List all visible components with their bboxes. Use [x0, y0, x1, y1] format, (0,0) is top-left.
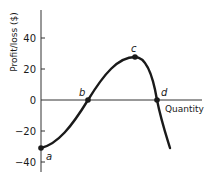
point-c-label: c	[131, 43, 137, 54]
point-a-marker	[38, 145, 44, 151]
point-c-marker	[132, 54, 138, 60]
x-axis-label: Quantity	[165, 104, 205, 114]
y-axis-label: Profit/loss ($)	[9, 12, 19, 72]
y-tick-label: 40	[23, 33, 36, 44]
point-b-label: b	[79, 87, 85, 98]
chart-canvas: 40 20 0 −20 −40 Profit/loss ($) Quantity…	[0, 0, 211, 184]
point-a-label: a	[46, 151, 52, 162]
y-tick-label: 0	[30, 95, 36, 106]
point-d-marker	[154, 97, 160, 103]
y-tick-label: −20	[15, 126, 36, 137]
point-b-marker	[85, 97, 91, 103]
profit-loss-chart: 40 20 0 −20 −40 Profit/loss ($) Quantity…	[0, 0, 211, 184]
y-tick-label: 20	[23, 64, 36, 75]
point-d-label: d	[161, 87, 168, 98]
profit-curve	[41, 57, 170, 148]
y-tick-label: −40	[15, 157, 36, 168]
